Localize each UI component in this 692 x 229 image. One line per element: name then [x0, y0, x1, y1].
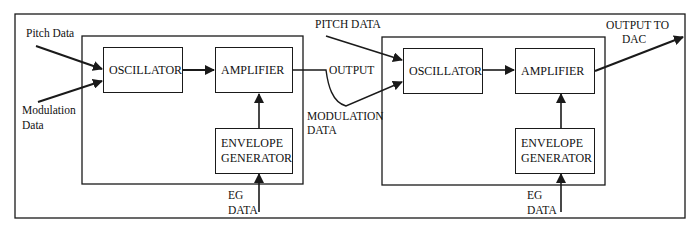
oscillator-block-1: OSCILLATOR	[103, 47, 183, 93]
amplifier-block-2: AMPLIFIER	[515, 48, 595, 94]
pitch-data-label-1: Pitch Data	[26, 26, 74, 40]
envelope-label-2b: GENERATOR	[521, 151, 592, 166]
synth-block-diagram: OSCILLATOR AMPLIFIER ENVELOPE GENERATOR …	[0, 0, 692, 229]
amplifier-label-1: AMPLIFIER	[221, 63, 284, 78]
modulation-data-label-1b: Data	[22, 118, 44, 132]
pitch-data-arrow-2	[326, 36, 402, 60]
oscillator-block-2: OSCILLATOR	[403, 48, 483, 94]
envelope-label-1b: GENERATOR	[221, 151, 292, 166]
envelope-label-2a: ENVELOPE	[521, 136, 583, 151]
modulation-data-label-1a: Modulation	[22, 103, 76, 117]
modulation-data-arrow-1	[38, 81, 102, 102]
output-to-dac-label-a: OUTPUT TO	[606, 18, 669, 32]
eg-data-label-1b: DATA	[228, 203, 258, 217]
envelope-generator-block-1: ENVELOPE GENERATOR	[215, 128, 293, 174]
amplifier-label-2: AMPLIFIER	[521, 64, 584, 79]
oscillator-label-1: OSCILLATOR	[109, 63, 182, 78]
modulation-data-label-2a: MODULATION	[307, 109, 384, 123]
envelope-label-1a: ENVELOPE	[221, 136, 283, 151]
eg-data-label-2b: DATA	[527, 203, 557, 217]
output-label-1: OUTPUT	[329, 63, 374, 77]
eg-data-label-1a: EG	[228, 188, 243, 202]
eg-data-label-2a: EG	[527, 188, 542, 202]
oscillator-label-2: OSCILLATOR	[409, 64, 482, 79]
output-to-dac-label-b: DAC	[622, 32, 646, 46]
amplifier-block-1: AMPLIFIER	[215, 47, 293, 93]
envelope-generator-block-2: ENVELOPE GENERATOR	[515, 128, 595, 174]
pitch-data-label-2: PITCH DATA	[315, 17, 381, 31]
pitch-data-arrow-1	[36, 46, 102, 69]
modulation-data-label-2b: DATA	[307, 123, 337, 137]
